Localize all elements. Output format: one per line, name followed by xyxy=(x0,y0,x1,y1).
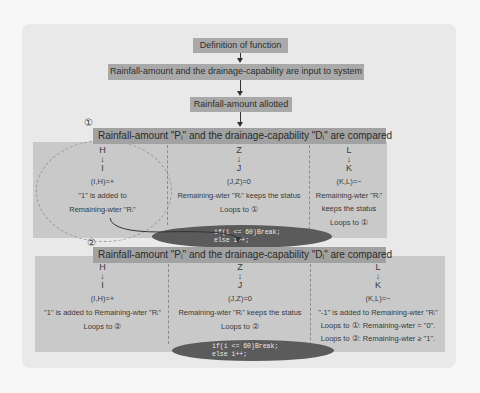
arrow-down-icon xyxy=(235,237,241,243)
loop-connector xyxy=(0,0,480,393)
